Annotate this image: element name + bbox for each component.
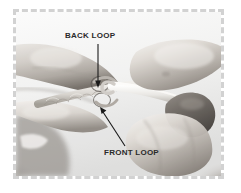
front-loop-label: FRONT LOOP	[104, 148, 159, 158]
back-loop-label: BACK LOOP	[65, 31, 115, 41]
figure-root: BACK LOOP FRONT LOOP	[0, 0, 241, 193]
